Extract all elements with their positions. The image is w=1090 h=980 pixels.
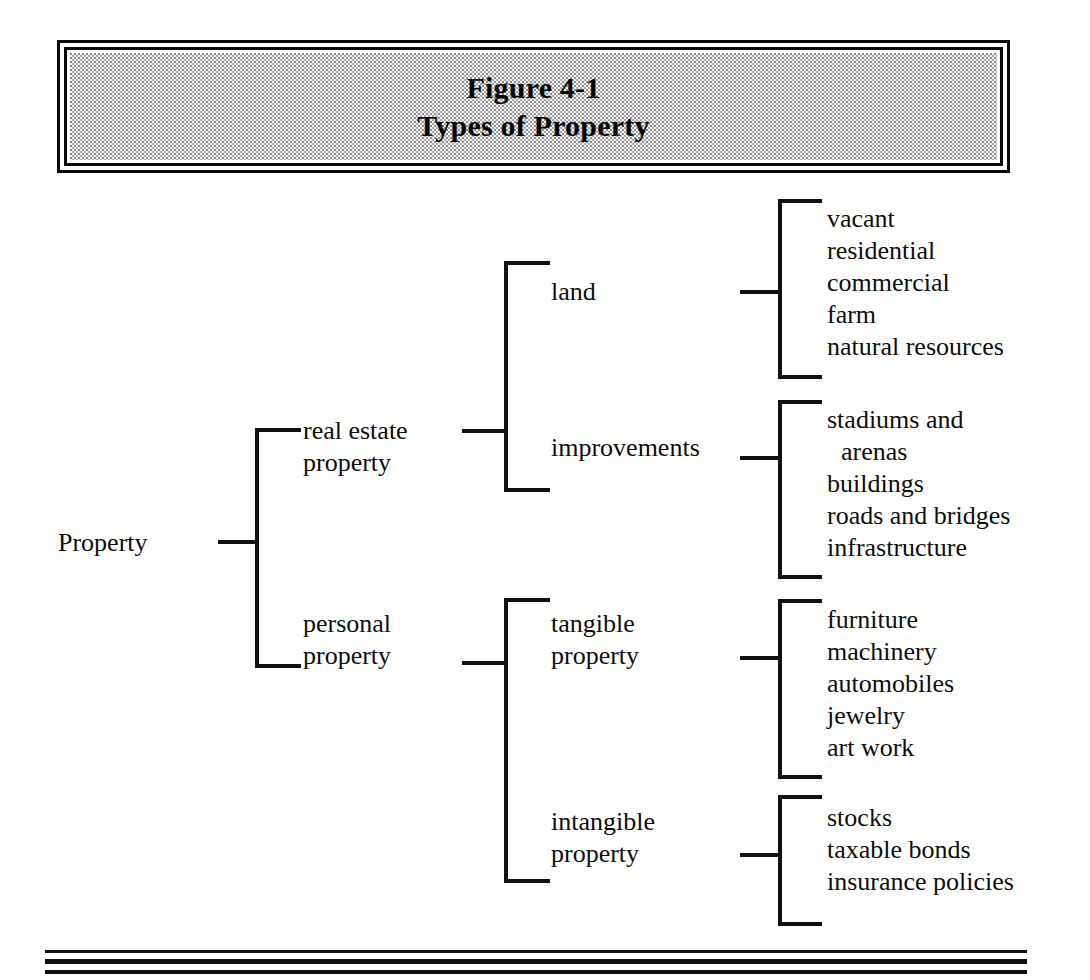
bracket-tangible-children [778, 599, 822, 779]
bracket-arm-top [504, 261, 550, 265]
bracket-spine [778, 400, 782, 579]
bracket-root-children [255, 428, 301, 668]
bracket-arm-bottom [504, 879, 550, 883]
bracket-spine [778, 795, 782, 926]
bracket-spine [778, 599, 782, 779]
leaf-intangible-taxable-bonds: taxable bonds [827, 834, 971, 866]
leaf-tangible-jewelry: jewelry [827, 700, 905, 732]
node-root-property: Property [58, 527, 148, 559]
connector-personal-to-level2 [462, 661, 507, 665]
node-personal-line2: property [303, 640, 391, 672]
leaf-improvements-roads-and-bridges: roads and bridges [827, 500, 1010, 532]
bracket-intangible-children [778, 795, 822, 926]
node-land: land [551, 276, 596, 308]
connector-tangible-to-level3 [740, 656, 782, 660]
property-tree-diagram: Property real estate property land [0, 0, 1090, 980]
connector-realestate-to-level2 [462, 429, 507, 433]
leaf-tangible-automobiles: automobiles [827, 668, 954, 700]
bracket-spine [504, 261, 508, 492]
leaf-improvements-infrastructure: infrastructure [827, 532, 967, 564]
bracket-arm-top [778, 400, 822, 404]
bracket-personal-children [504, 598, 550, 883]
leaf-land-vacant: vacant [827, 203, 895, 235]
node-improvements: improvements [551, 432, 700, 464]
bracket-arm-top [778, 199, 822, 203]
bracket-arm-top [504, 598, 550, 602]
node-intangible-line2: property [551, 838, 639, 870]
leaf-land-commercial: commercial [827, 267, 950, 299]
leaf-tangible-furniture: furniture [827, 604, 918, 636]
bracket-real-estate-children [504, 261, 550, 492]
bracket-spine [778, 199, 782, 379]
bracket-spine [504, 598, 508, 883]
leaf-tangible-art-work: art work [827, 732, 914, 764]
leaf-intangible-stocks: stocks [827, 802, 892, 834]
connector-improvements-to-level3 [740, 456, 782, 460]
leaf-improvements-buildings: buildings [827, 468, 924, 500]
leaf-intangible-insurance-policies: insurance policies [827, 866, 1014, 898]
bracket-arm-top [778, 599, 822, 603]
connector-land-to-level3 [740, 290, 782, 294]
node-real-estate-line1: real estate [303, 415, 408, 447]
leaf-land-residential: residential [827, 235, 935, 267]
leaf-improvements-stadiums-and: stadiums and [827, 404, 964, 436]
bracket-arm-top [255, 428, 301, 432]
node-real-estate-line2: property [303, 447, 391, 479]
bracket-arm-bottom [778, 575, 822, 579]
node-tangible-line1: tangible [551, 608, 635, 640]
rule-line-3 [45, 970, 1027, 974]
connector-root-to-level1 [218, 540, 258, 544]
bracket-land-children [778, 199, 822, 379]
bracket-improvements-children [778, 400, 822, 579]
rule-line-2 [45, 959, 1027, 964]
leaf-tangible-machinery: machinery [827, 636, 937, 668]
bracket-arm-bottom [778, 922, 822, 926]
bottom-rule-divider [45, 950, 1027, 976]
connector-intangible-to-level3 [740, 853, 782, 857]
bracket-arm-bottom [778, 775, 822, 779]
node-intangible-line1: intangible [551, 806, 655, 838]
bracket-arm-bottom [255, 664, 301, 668]
leaf-land-farm: farm [827, 299, 876, 331]
figure-page: Figure 4-1 Types of Property Property re… [0, 0, 1090, 980]
bracket-arm-bottom [778, 375, 822, 379]
bracket-arm-bottom [504, 488, 550, 492]
node-personal-line1: personal [303, 608, 391, 640]
bracket-spine [255, 428, 259, 668]
leaf-improvements-arenas: arenas [827, 436, 907, 468]
leaf-land-natural-resources: natural resources [827, 331, 1004, 363]
rule-line-1 [45, 950, 1027, 953]
bracket-arm-top [778, 795, 822, 799]
node-tangible-line2: property [551, 640, 639, 672]
